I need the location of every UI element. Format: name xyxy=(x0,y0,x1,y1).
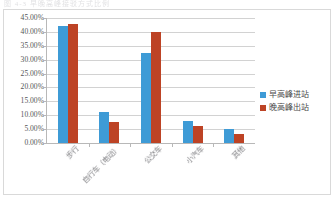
bar xyxy=(141,53,151,143)
y-axis-tick-label: 10.00% xyxy=(6,111,44,119)
y-axis-tick-label: 30.00% xyxy=(6,56,44,64)
x-axis-category-label: 公交车 xyxy=(142,144,163,165)
y-axis-tick-mark xyxy=(44,101,47,102)
y-axis-tick-mark xyxy=(44,32,47,33)
legend-color-swatch-icon xyxy=(260,105,266,111)
legend-item[interactable]: 晚高峰出站 xyxy=(260,101,330,114)
x-axis-category-label: 其他 xyxy=(230,144,246,160)
bar xyxy=(58,26,68,143)
bar xyxy=(151,32,161,143)
y-axis-tick-label: 20.00% xyxy=(6,83,44,91)
bar xyxy=(109,122,119,143)
y-axis-tick-mark xyxy=(44,74,47,75)
y-axis-tick-mark xyxy=(44,129,47,130)
y-axis-tick-label: 25.00% xyxy=(6,70,44,78)
y-axis-tick-label: 40.00% xyxy=(6,28,44,36)
chart-legend: 早高峰进站晚高峰出站 xyxy=(260,88,330,114)
x-axis-category-label: 自行车（电动） xyxy=(81,144,122,185)
chart-plot-wrapper: 45.00%40.00%35.00%30.00%25.00%20.00%15.0… xyxy=(4,10,330,194)
y-axis-tick-label: 45.00% xyxy=(6,14,44,22)
y-axis-tick-label: 0.00% xyxy=(6,139,44,147)
y-axis-tick-mark xyxy=(44,18,47,19)
plot-area xyxy=(46,18,255,144)
legend-color-swatch-icon xyxy=(260,92,266,98)
x-axis-category-label: 步行 xyxy=(64,144,80,160)
bar xyxy=(234,134,244,143)
bar xyxy=(68,24,78,143)
x-axis-category-label: 小汽车 xyxy=(184,144,205,165)
y-axis-tick-mark xyxy=(44,46,47,47)
x-axis-category-labels: 步行自行车（电动）公交车小汽车其他 xyxy=(46,144,254,192)
bar xyxy=(183,121,193,143)
y-axis-tick-mark xyxy=(44,60,47,61)
y-axis-tick-mark xyxy=(44,115,47,116)
bar xyxy=(193,126,203,143)
y-axis-tick-label: 5.00% xyxy=(6,125,44,133)
scanned-figure-caption: 图 4-3 早晚高峰接驳方式比例 xyxy=(4,0,144,9)
y-axis-tick-mark xyxy=(44,87,47,88)
legend-label: 早高峰进站 xyxy=(269,90,309,99)
chart-frame: 45.00%40.00%35.00%30.00%25.00%20.00%15.0… xyxy=(3,9,331,195)
bar xyxy=(99,112,109,143)
legend-label: 晚高峰出站 xyxy=(269,103,309,112)
y-axis-tick-labels: 45.00%40.00%35.00%30.00%25.00%20.00%15.0… xyxy=(6,18,44,143)
y-axis-tick-label: 15.00% xyxy=(6,97,44,105)
legend-item[interactable]: 早高峰进站 xyxy=(260,88,330,101)
y-axis-tick-label: 35.00% xyxy=(6,42,44,50)
gridline xyxy=(47,18,255,19)
bar xyxy=(224,129,234,143)
